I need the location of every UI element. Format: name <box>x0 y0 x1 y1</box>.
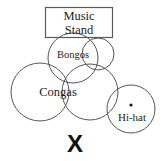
congas-label: Congas <box>24 86 92 99</box>
bongos-label: Bongos <box>43 49 103 60</box>
hihat-circle <box>107 85 155 133</box>
x-position-marker: X <box>62 131 88 156</box>
music-stand-label-line1: Music <box>45 9 113 23</box>
hihat-center-dot-icon <box>129 103 132 106</box>
hihat-label: Hi-hat <box>108 112 156 124</box>
music-stand-label-line2: Stand <box>45 23 113 37</box>
music-stand-label: Music Stand <box>45 9 113 37</box>
drum-setup-diagram: Music Stand Bongos Congas Hi-hat X <box>0 0 162 161</box>
